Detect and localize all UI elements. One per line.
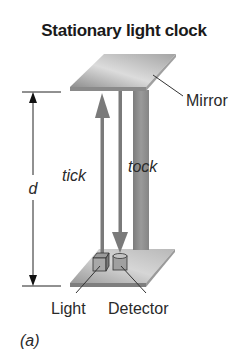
panel-label: (a) — [20, 332, 40, 349]
mirror-leader-line — [153, 75, 183, 96]
mirror-label: Mirror — [186, 92, 228, 109]
light-clock-diagram: Stationary light clock Mirror tick tock — [0, 0, 248, 361]
light-source — [93, 253, 109, 271]
distance-label: d — [29, 180, 39, 197]
tock-label: tock — [128, 158, 158, 175]
detector-label: Detector — [108, 300, 169, 317]
tick-arrow — [95, 93, 110, 254]
detector — [113, 254, 127, 271]
figure-title: Stationary light clock — [41, 21, 207, 40]
light-label: Light — [51, 300, 86, 317]
tick-label: tick — [62, 167, 87, 184]
top-mirror — [70, 54, 176, 91]
tock-arrow — [112, 91, 128, 253]
